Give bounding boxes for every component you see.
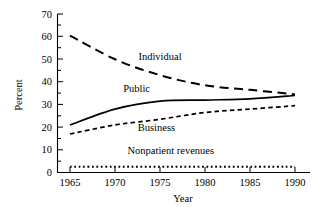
y-axis-title: Percent	[13, 79, 24, 111]
series-label-business: Business	[138, 122, 175, 133]
line-chart: 0 10 20 30 40 50 60 70 Percent 1965 1970…	[0, 0, 323, 215]
x-tick-label-1975: 1975	[150, 177, 171, 188]
y-tick-label-50: 50	[42, 54, 53, 65]
x-axis-title: Year	[173, 193, 193, 204]
y-tick-label-60: 60	[42, 31, 53, 42]
y-tick-label-10: 10	[42, 144, 53, 155]
y-tick-label-30: 30	[42, 99, 53, 110]
y-tick-label-40: 40	[42, 76, 53, 87]
x-tick-label-1980: 1980	[195, 177, 216, 188]
x-tick-label-1985: 1985	[240, 177, 261, 188]
series-line-business	[70, 106, 295, 134]
series-line-public	[70, 96, 295, 125]
series-label-public: Public	[123, 83, 150, 94]
x-tick-label-1990: 1990	[285, 177, 306, 188]
y-axis-ticks	[58, 14, 64, 173]
y-tick-label-20: 20	[42, 122, 53, 133]
x-tick-label-1965: 1965	[60, 177, 81, 188]
chart-figure: 0 10 20 30 40 50 60 70 Percent 1965 1970…	[0, 0, 323, 215]
x-axis-ticks	[70, 167, 295, 173]
y-tick-label-0: 0	[47, 167, 52, 178]
x-tick-label-1970: 1970	[105, 177, 126, 188]
y-tick-label-70: 70	[42, 9, 53, 20]
series-label-nonpatient-revenues: Nonpatient revenues	[127, 145, 214, 156]
series-line-individual	[70, 36, 295, 95]
series-label-individual: Individual	[138, 51, 181, 62]
